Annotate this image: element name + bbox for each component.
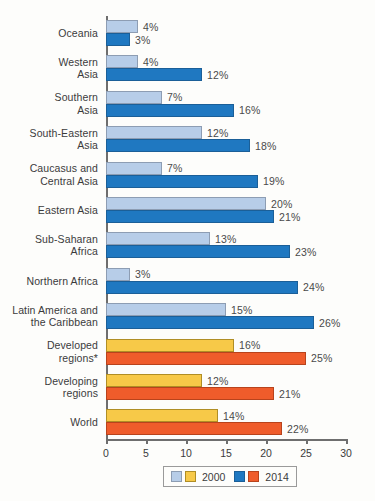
bar-2014 <box>106 245 290 258</box>
bar-group-2014: 22% <box>106 422 346 435</box>
bar-group-2014: 18% <box>106 139 346 152</box>
category-label-line: regions <box>0 387 98 400</box>
bar-2000 <box>106 197 266 210</box>
bar-2014 <box>106 352 306 365</box>
bar-group-2014: 24% <box>106 281 346 294</box>
legend-swatch-lblue <box>171 471 182 482</box>
category-label-line: Africa <box>0 245 98 258</box>
bar-group-2014: 25% <box>106 352 346 365</box>
x-axis-tick <box>146 439 148 444</box>
chart-row: Eastern Asia20%21% <box>106 197 346 223</box>
bar-group-2000: 7% <box>106 91 346 104</box>
x-axis-tick-label: 15 <box>220 447 232 459</box>
bar-2000 <box>106 55 138 68</box>
bar-value-label: 13% <box>215 233 236 245</box>
legend-entry-2014: 2014 <box>234 471 288 483</box>
bar-group-2014: 12% <box>106 68 346 81</box>
x-axis-tick-label: 25 <box>300 447 312 459</box>
bar-group-2000: 20% <box>106 197 346 210</box>
bar-value-label: 12% <box>207 127 228 139</box>
category-label-line: Asia <box>0 68 98 81</box>
chart-row: Latin America andthe Caribbean15%26% <box>106 303 346 329</box>
bar-value-label: 4% <box>143 21 158 33</box>
category-label-line: Latin America and <box>0 304 98 317</box>
category-label-line: the Caribbean <box>0 316 98 329</box>
bar-value-label: 20% <box>271 198 292 210</box>
bar-2000 <box>106 409 218 422</box>
bar-2000 <box>106 232 210 245</box>
bar-2000 <box>106 162 162 175</box>
category-label: Developedregions* <box>0 339 98 364</box>
category-label: Northern Africa <box>0 275 98 288</box>
category-label-line: World <box>0 416 98 429</box>
category-label-line: Northern Africa <box>0 275 98 288</box>
chart-row: SouthernAsia7%16% <box>106 91 346 117</box>
bar-2014 <box>106 210 274 223</box>
bar-group-2014: 19% <box>106 175 346 188</box>
bar-2014 <box>106 387 274 400</box>
category-label-line: Oceania <box>0 27 98 40</box>
bar-group-2014: 21% <box>106 210 346 223</box>
plot-area: Oceania4%3%WesternAsia4%12%SouthernAsia7… <box>106 16 346 438</box>
bar-2000 <box>106 20 138 33</box>
bar-value-label: 24% <box>303 281 324 293</box>
chart-row: Oceania4%3% <box>106 20 346 46</box>
chart-row: Sub-SaharanAfrica13%23% <box>106 232 346 258</box>
x-axis-tick-label: 0 <box>103 447 109 459</box>
category-label-line: Eastern Asia <box>0 204 98 217</box>
category-label: Eastern Asia <box>0 204 98 217</box>
bar-2000 <box>106 91 162 104</box>
bar-value-label: 7% <box>167 162 182 174</box>
bar-2000 <box>106 126 202 139</box>
category-label-line: Sub-Saharan <box>0 233 98 246</box>
bar-group-2000: 14% <box>106 409 346 422</box>
bar-2014 <box>106 139 250 152</box>
bar-group-2014: 26% <box>106 316 346 329</box>
bar-value-label: 16% <box>239 104 260 116</box>
bar-chart: Oceania4%3%WesternAsia4%12%SouthernAsia7… <box>0 0 375 501</box>
x-axis-tick <box>226 439 228 444</box>
bar-group-2000: 12% <box>106 374 346 387</box>
bar-group-2014: 16% <box>106 104 346 117</box>
bar-2000 <box>106 303 226 316</box>
x-axis-tick <box>186 439 188 444</box>
bar-value-label: 3% <box>135 268 150 280</box>
x-axis-tick-label: 5 <box>143 447 149 459</box>
bar-group-2014: 21% <box>106 387 346 400</box>
legend-swatch-orange <box>248 471 259 482</box>
bar-group-2000: 13% <box>106 232 346 245</box>
x-axis-tick <box>266 439 268 444</box>
category-label-line: Southern <box>0 91 98 104</box>
bar-value-label: 12% <box>207 69 228 81</box>
x-axis-tick-label: 30 <box>340 447 352 459</box>
category-label: WesternAsia <box>0 56 98 81</box>
category-label-line: Developing <box>0 375 98 388</box>
chart-row: World14%22% <box>106 409 346 435</box>
bar-2014 <box>106 33 130 46</box>
bar-2014 <box>106 422 282 435</box>
x-axis-tick-label: 10 <box>180 447 192 459</box>
category-label-line: Caucasus and <box>0 162 98 175</box>
bar-2000 <box>106 268 130 281</box>
category-label-line: South-Eastern <box>0 127 98 140</box>
x-axis-tick <box>306 439 308 444</box>
category-label-line: Developed <box>0 339 98 352</box>
x-axis-tick <box>346 439 348 444</box>
bar-2000 <box>106 374 202 387</box>
legend-entry-2000: 2000 <box>171 471 225 483</box>
bar-value-label: 14% <box>223 410 244 422</box>
chart-row: Developingregions12%21% <box>106 374 346 400</box>
bar-group-2000: 3% <box>106 268 346 281</box>
bar-value-label: 26% <box>319 317 340 329</box>
bar-2014 <box>106 68 202 81</box>
legend-swatch-blue <box>234 471 245 482</box>
category-label: SouthernAsia <box>0 91 98 116</box>
chart-row: Northern Africa3%24% <box>106 268 346 294</box>
bar-group-2014: 23% <box>106 245 346 258</box>
category-label-line: Western <box>0 56 98 69</box>
bar-value-label: 15% <box>231 304 252 316</box>
category-label: Caucasus andCentral Asia <box>0 162 98 187</box>
bar-2014 <box>106 175 258 188</box>
bar-value-label: 21% <box>279 388 300 400</box>
x-axis-tick <box>106 439 108 444</box>
